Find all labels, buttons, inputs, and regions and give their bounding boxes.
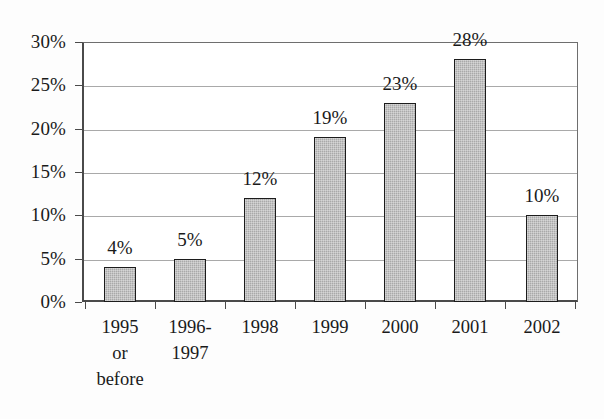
y-tick-10 xyxy=(75,215,82,216)
x-tick-4 xyxy=(365,302,366,309)
y-axis-label-20: 20% xyxy=(0,119,66,138)
x-tick-5 xyxy=(435,302,436,309)
bar-value-label-2002: 10% xyxy=(502,186,582,205)
y-axis-label-10: 10% xyxy=(0,205,66,224)
bar-2002 xyxy=(526,215,558,302)
y-axis-label-0: 0% xyxy=(0,292,66,311)
bar-2000 xyxy=(384,103,416,302)
x-axis-label-2002: 2002 xyxy=(497,314,587,340)
gridline-25 xyxy=(84,86,577,87)
y-axis-label-15: 15% xyxy=(0,162,66,181)
y-tick-25 xyxy=(75,85,82,86)
bar-value-label-2000: 23% xyxy=(360,74,440,93)
y-tick-0 xyxy=(75,302,82,303)
bar-value-label-2001: 28% xyxy=(430,30,510,49)
bar-1995-or-before xyxy=(104,267,136,302)
bar-value-label-1999: 19% xyxy=(290,108,370,127)
bar-chart: 30% 25% 20% 15% 10% 5% 0% 4% 5% 12% 19% … xyxy=(0,0,604,419)
x-tick-6 xyxy=(505,302,506,309)
bar-1998 xyxy=(244,198,276,302)
gridline-20 xyxy=(84,130,577,131)
y-axis-label-30: 30% xyxy=(0,32,66,51)
x-tick-1 xyxy=(155,302,156,309)
y-tick-30 xyxy=(75,42,82,43)
bar-1999 xyxy=(314,137,346,302)
bar-value-label-1995-or-before: 4% xyxy=(80,238,160,257)
y-tick-15 xyxy=(75,172,82,173)
bar-2001 xyxy=(454,59,486,302)
y-axis-label-25: 25% xyxy=(0,75,66,94)
y-tick-20 xyxy=(75,129,82,130)
bar-value-label-1996-1997: 5% xyxy=(150,230,230,249)
bar-1996-1997 xyxy=(174,259,206,302)
x-tick-0 xyxy=(85,302,86,309)
bar-value-label-1998: 12% xyxy=(220,169,300,188)
y-tick-5 xyxy=(75,259,82,260)
x-tick-3 xyxy=(295,302,296,309)
x-tick-7 xyxy=(575,302,576,309)
x-tick-2 xyxy=(225,302,226,309)
y-axis-label-5: 5% xyxy=(0,249,66,268)
